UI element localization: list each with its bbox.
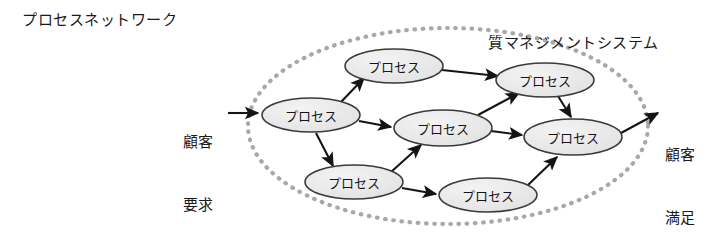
process-node-p2[interactable]: プロセス bbox=[345, 49, 443, 83]
process-node-label: プロセス bbox=[519, 74, 571, 89]
process-node-label: プロセス bbox=[547, 131, 599, 146]
process-node-label: プロセス bbox=[417, 122, 469, 137]
edge-p7-to-p5 bbox=[528, 157, 557, 185]
process-node-label: プロセス bbox=[328, 176, 380, 191]
customer-satisfaction-label: 顧客 満足 bbox=[665, 103, 695, 246]
edge-p3-to-p4 bbox=[478, 93, 519, 115]
edge-p1-to-p3 bbox=[359, 121, 391, 127]
quality-management-system-label: 質マネジメントシステム bbox=[488, 31, 659, 52]
customer-requirements-line2: 要求 bbox=[183, 195, 213, 216]
edge-p5-to-output bbox=[621, 113, 658, 133]
process-node-p7[interactable]: プロセス bbox=[439, 178, 537, 212]
diagram-title: プロセスネットワーク bbox=[22, 8, 177, 29]
customer-requirements-line1: 顧客 bbox=[183, 132, 213, 153]
diagram-canvas: プロセス プロセス プロセス プロセス プロセス プロセス プロセス プロセスネ… bbox=[0, 0, 724, 246]
edge-p4-to-p5 bbox=[558, 96, 571, 117]
customer-satisfaction-line2: 満足 bbox=[665, 208, 695, 229]
process-node-p4[interactable]: プロセス bbox=[496, 63, 594, 97]
edge-p2-to-p4 bbox=[442, 70, 498, 76]
process-node-label: プロセス bbox=[368, 60, 420, 75]
edge-p3-to-p5 bbox=[491, 131, 522, 135]
edge-p1-to-p6 bbox=[316, 133, 333, 166]
process-node-p5[interactable]: プロセス bbox=[524, 119, 622, 155]
customer-satisfaction-line1: 顧客 bbox=[665, 145, 695, 166]
process-node-p6[interactable]: プロセス bbox=[305, 165, 403, 199]
process-node-label: プロセス bbox=[285, 109, 337, 124]
process-node-p3[interactable]: プロセス bbox=[394, 110, 492, 146]
edge-p6-to-p3 bbox=[391, 145, 421, 172]
edge-p6-to-p7 bbox=[402, 188, 436, 194]
process-node-p1[interactable]: プロセス bbox=[262, 98, 360, 132]
process-node-label: プロセス bbox=[462, 189, 514, 204]
edge-p1-to-p2 bbox=[341, 78, 364, 102]
customer-requirements-label: 顧客 要求 bbox=[183, 90, 213, 246]
